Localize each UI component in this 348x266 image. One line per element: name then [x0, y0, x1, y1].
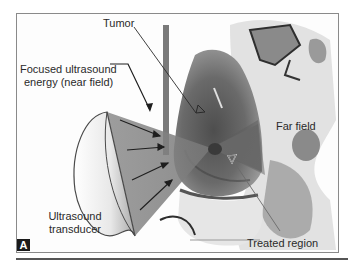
bottom-divider	[16, 258, 348, 260]
focused-energy-label-line2: energy (near field)	[24, 76, 112, 88]
far-field-label: Far field	[276, 120, 316, 132]
transducer-label-line1: Ultrasound	[46, 210, 104, 222]
panel-letter-badge: A	[17, 239, 30, 251]
tumor-label: Tumor	[103, 17, 134, 29]
treated-region-label: Treated region	[247, 237, 318, 249]
transducer-label-line2: transducer	[46, 223, 104, 235]
focused-energy-label-line1: Focused ultrasound	[20, 63, 110, 75]
treated-region-spot	[208, 143, 222, 155]
